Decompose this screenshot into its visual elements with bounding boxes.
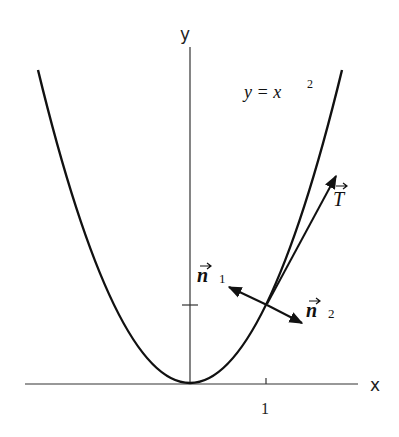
normal-vector-n2 [267,305,302,323]
normal2-subscript: 2 [328,306,335,321]
tangent-vector-T [267,176,336,304]
normal1-label: n [197,264,208,286]
normal-vector-n1 [229,287,267,305]
normal1-subscript: 1 [219,271,226,286]
x-tick-label-1: 1 [261,400,269,417]
parabola-diagram: y x 1 y = x 2 T n 1 n 2 [0,0,399,437]
y-axis-label: y [180,24,190,44]
tangent-label: T [333,188,346,210]
normal2-label: n [306,299,317,321]
curve-equation-exponent: 2 [307,77,313,91]
x-axis-label: x [370,375,380,395]
curve-equation-label: y = x [242,82,281,102]
